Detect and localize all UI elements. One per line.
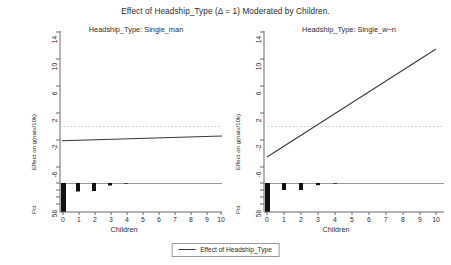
x-tick-right-4: 4 (329, 216, 341, 223)
x-tick-left-6: 6 (153, 216, 165, 223)
x-tick-left-9: 9 (201, 216, 213, 223)
x-tick-right-8: 8 (397, 216, 409, 223)
x-tick-left-8: 8 (185, 216, 197, 223)
panel-single-man: Headship_Type: Single_man Effect on g(na… (26, 22, 222, 217)
x-tick-right-6: 6 (363, 216, 375, 223)
x-tick-right-9: 9 (414, 216, 426, 223)
x-tick-right-1: 1 (278, 216, 290, 223)
x-tick-left-1: 1 (73, 216, 85, 223)
x-tick-left-10: 10 (215, 216, 227, 223)
x-tick-left-7: 7 (169, 216, 181, 223)
x-axis-label-left: Children (26, 225, 222, 234)
x-tick-left-2: 2 (89, 216, 101, 223)
legend-line-swatch (178, 249, 195, 250)
x-tick-right-0: 0 (261, 216, 273, 223)
plot-area-left (26, 22, 222, 217)
x-tick-right-5: 5 (346, 216, 358, 223)
x-tick-right-2: 2 (295, 216, 307, 223)
x-tick-right-3: 3 (312, 216, 324, 223)
plot-area-right (228, 22, 444, 217)
x-axis-label-right: Children (228, 225, 444, 234)
x-tick-left-0: 0 (57, 216, 69, 223)
chart-legend: Effect of Headship_Type (171, 243, 280, 257)
chart-title: Effect of Headship_Type (Δ = 1) Moderate… (0, 7, 451, 16)
x-tick-left-5: 5 (137, 216, 149, 223)
x-tick-left-4: 4 (121, 216, 133, 223)
x-tick-right-10: 10 (430, 216, 442, 223)
x-tick-right-7: 7 (380, 216, 392, 223)
x-tick-left-3: 3 (105, 216, 117, 223)
chart-root: Effect of Headship_Type (Δ = 1) Moderate… (0, 0, 451, 265)
legend-label-0: Effect of Headship_Type (200, 246, 272, 253)
panel-single-woman: Headship_Type: Single_w~n Effect on g(na… (228, 22, 444, 217)
